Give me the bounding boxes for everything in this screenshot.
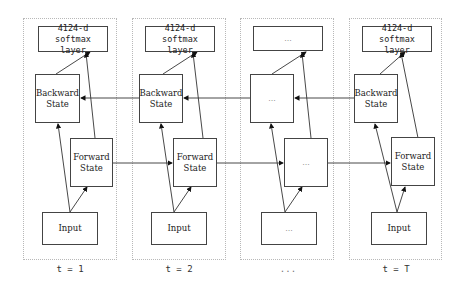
timestep-label: t = T bbox=[366, 264, 426, 274]
backward-state-box: Backward State bbox=[139, 74, 183, 123]
brnn-diagram: 4124-d softmax layer Backward State Forw… bbox=[0, 0, 467, 285]
forward-state-box: Forward State bbox=[391, 137, 435, 186]
backward-state-box: Backward State bbox=[354, 74, 398, 123]
timestep-label: ... bbox=[258, 264, 318, 274]
softmax-layer-box: ... bbox=[253, 26, 323, 51]
input-box: ... bbox=[261, 212, 317, 245]
softmax-layer-box: 4124-d softmax layer bbox=[145, 26, 215, 52]
timestep-label: t = 2 bbox=[149, 264, 209, 274]
timestep-label: t = 1 bbox=[40, 264, 100, 274]
forward-state-box: ... bbox=[284, 138, 328, 187]
input-box: Input bbox=[151, 212, 207, 245]
backward-state-box: Backward State bbox=[35, 74, 80, 123]
forward-state-box: Forward State bbox=[70, 138, 113, 187]
softmax-layer-box: 4124-d softmax layer bbox=[362, 26, 432, 52]
input-box: Input bbox=[42, 212, 98, 245]
forward-state-box: Forward State bbox=[173, 138, 217, 187]
input-box: Input bbox=[371, 212, 427, 245]
backward-state-box: ... bbox=[250, 74, 294, 123]
softmax-layer-box: 4124-d softmax layer bbox=[38, 26, 108, 52]
